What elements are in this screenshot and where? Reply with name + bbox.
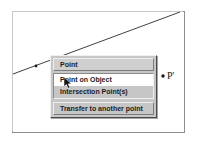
menu-options-group: Point on Object Intersection Point(s): [53, 73, 154, 99]
point-label-p-prime: P': [167, 70, 174, 81]
menu-item-intersection-points[interactable]: Intersection Point(s): [54, 86, 153, 98]
menu-title-point: Point: [53, 58, 154, 71]
point-context-menu[interactable]: Point Point on Object Intersection Point…: [50, 55, 157, 118]
screenshot-root: P' Point Point on Object Intersection Po…: [0, 0, 199, 147]
point-p-prime[interactable]: [161, 74, 164, 77]
point-on-line[interactable]: [35, 65, 38, 68]
menu-item-point-on-object[interactable]: Point on Object: [54, 74, 153, 86]
menu-item-transfer-to-another-point[interactable]: Transfer to another point: [53, 102, 154, 115]
